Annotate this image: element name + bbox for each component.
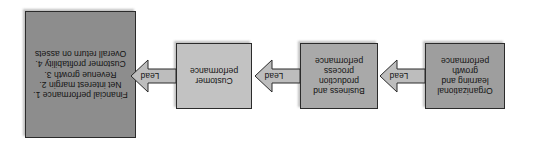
right-block-arrow-icon	[254, 59, 300, 93]
node-business-process-performance-label: Business and production process performa…	[304, 56, 374, 97]
node-financial-performance-label: Financial performance 1. Net interest ma…	[29, 49, 132, 100]
arrow-customer-to-financial[interactable]: Lead	[379, 59, 425, 93]
node-business-process-performance[interactable]: Business and production process performa…	[300, 43, 378, 109]
node-customer-performance[interactable]: Customer performance	[176, 43, 252, 109]
right-block-arrow-icon	[379, 59, 425, 93]
diagram-canvas: Financial performance 1. Net interest ma…	[0, 0, 534, 149]
node-organizational-learning-performance[interactable]: Organizational learning and growth perfo…	[425, 43, 505, 109]
arrow-learning-to-process[interactable]: Lead	[130, 59, 176, 93]
right-block-arrow-icon	[130, 59, 176, 93]
node-financial-performance[interactable]: Financial performance 1. Net interest ma…	[25, 11, 136, 138]
arrow-process-to-customer[interactable]: Lead	[254, 59, 300, 93]
node-customer-performance-label: Customer performance	[180, 66, 248, 86]
flowchart-diagram: Financial performance 1. Net interest ma…	[0, 0, 534, 149]
node-organizational-learning-performance-label: Organizational learning and growth perfo…	[429, 56, 501, 97]
